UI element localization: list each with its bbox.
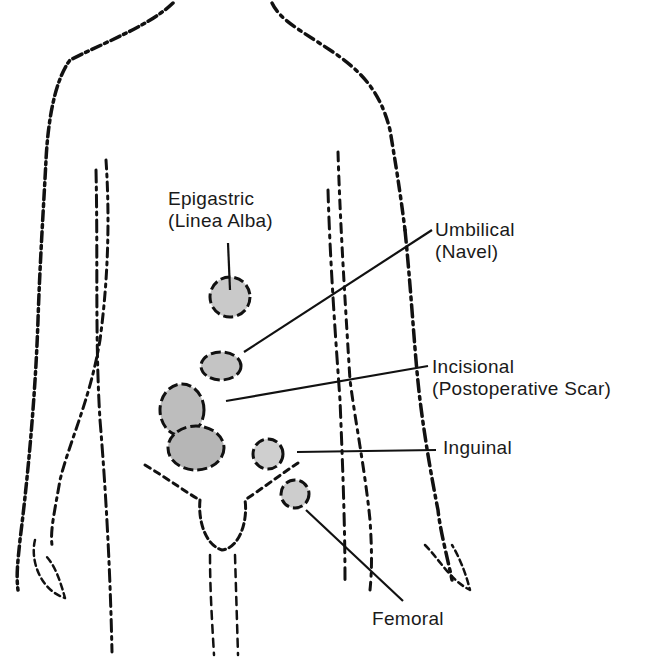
- left-inner-arm: [52, 160, 108, 545]
- label-umbilical: Umbilical (Navel): [435, 219, 515, 263]
- right-shoulder-outline: [272, 3, 405, 230]
- hernia-diagram: Epigastric (Linea Alba) Umbilical (Navel…: [0, 0, 646, 658]
- umbilical-leader: [244, 230, 432, 352]
- label-epigastric-line1: Epigastric: [168, 188, 273, 210]
- femoral-hernia: [281, 480, 309, 508]
- inguinal-hernia: [253, 439, 283, 469]
- label-epigastric: Epigastric (Linea Alba): [168, 188, 273, 232]
- left-leg-line: [210, 555, 214, 655]
- label-incisional: Incisional (Postoperative Scar): [432, 356, 611, 400]
- incisional-leader: [226, 366, 428, 401]
- label-epigastric-line2: (Linea Alba): [168, 210, 273, 232]
- inguinal-leader: [297, 450, 436, 452]
- label-umbilical-line2: (Navel): [435, 241, 515, 263]
- label-umbilical-line1: Umbilical: [435, 219, 515, 241]
- incisional-hernia-lower: [168, 426, 224, 470]
- right-flank-outline: [405, 230, 452, 580]
- genital-outline: [200, 500, 246, 550]
- label-femoral: Femoral: [372, 608, 444, 630]
- left-hand: [34, 540, 65, 598]
- left-torso-side: [96, 170, 112, 652]
- label-incisional-line2: (Postoperative Scar): [432, 378, 611, 400]
- torso-figure: [0, 0, 646, 658]
- umbilical-hernia: [201, 352, 241, 380]
- right-leg-line: [235, 555, 238, 655]
- label-femoral-line1: Femoral: [372, 608, 444, 630]
- left-shoulder-outline: [17, 3, 173, 590]
- label-incisional-line1: Incisional: [432, 356, 611, 378]
- femoral-leader: [306, 510, 403, 601]
- label-inguinal: Inguinal: [443, 437, 512, 459]
- label-inguinal-line1: Inguinal: [443, 437, 512, 459]
